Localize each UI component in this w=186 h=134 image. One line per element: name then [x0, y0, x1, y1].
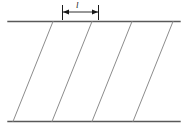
- helix-turn-lines: [13, 22, 173, 122]
- helix-turn-line-3: [92, 22, 132, 122]
- pitch-dimension-annotation: [63, 5, 99, 20]
- band-edges: [8, 22, 180, 122]
- dimension-arrowhead-left: [63, 10, 69, 15]
- pitch-dimension-label: l: [76, 1, 79, 10]
- helix-pitch-diagram: l: [0, 0, 186, 134]
- helix-turn-line-4: [133, 22, 173, 122]
- diagram-canvas: [0, 0, 186, 134]
- helix-turn-line-1: [13, 22, 53, 122]
- helix-turn-line-2: [52, 22, 92, 122]
- dimension-arrowhead-right: [92, 10, 98, 15]
